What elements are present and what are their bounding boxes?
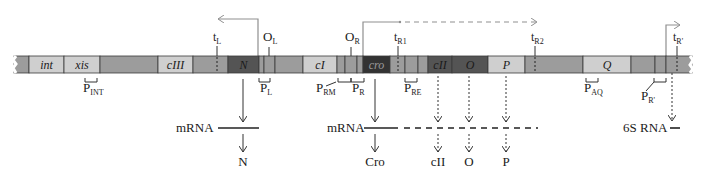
segment (100, 56, 158, 73)
promoter-label-PL: PL (260, 80, 272, 97)
promoter-label-PINT: PINT (83, 80, 104, 97)
genome-bar: intxiscIIINcIcrocIIOPQ (13, 56, 693, 73)
transcript-arrows (218, 19, 680, 56)
gene-label-O: O (466, 58, 475, 72)
promoter-label-PR: PR (352, 80, 365, 97)
product-O: O (464, 76, 473, 169)
torn-edge-left (13, 56, 16, 73)
gene-label-xis: xis (74, 58, 89, 72)
operator-label-OL: OL (263, 29, 277, 46)
segment-xis: xis (64, 56, 100, 73)
segment (337, 56, 345, 73)
promoter-label-PR': PR' (641, 88, 656, 105)
segment-N: N (228, 56, 259, 73)
promoter-PR: PR (351, 78, 365, 97)
segment (525, 56, 583, 73)
operator-OR: OR (345, 29, 360, 56)
operator-OL: OL (263, 29, 277, 56)
terminator-label-tR1: tR1 (394, 30, 407, 46)
mrna-label: mRNA (176, 120, 214, 135)
torn-edge-right (690, 56, 693, 73)
promoter-label-PAQ: PAQ (584, 80, 603, 97)
promoter-label-PRM: PRM (316, 80, 336, 97)
terminator-label-tR': tR' (673, 30, 684, 46)
gene-label-N: N (238, 58, 248, 72)
product-label: Cro (365, 154, 385, 169)
gene-label-cro: cro (369, 58, 385, 72)
gene-label-cI: cI (315, 58, 325, 72)
gene-label-Q: Q (603, 58, 612, 72)
mrna-label: mRNA (327, 120, 365, 135)
segment (193, 56, 228, 73)
promoter-PAQ: PAQ (584, 78, 603, 97)
promoter-PR': PR' (641, 78, 666, 105)
segment-Q: Q (583, 56, 631, 73)
segment (405, 56, 418, 73)
product-N: N (238, 79, 248, 169)
promoter-PRM: PRM (316, 78, 351, 97)
segment (345, 56, 357, 73)
product-P: P (502, 76, 509, 169)
mrna-1: mRNA (327, 120, 538, 135)
protein-products: NCrocIIOP (238, 73, 672, 169)
promoter-PINT: PINT (83, 78, 104, 97)
segment (418, 56, 428, 73)
gene-label-int: int (40, 58, 53, 72)
segment-cII: cII (428, 56, 452, 73)
gene-label-cIII: cIII (167, 58, 185, 72)
segment-P: P (488, 56, 525, 73)
segment-cro: cro (363, 56, 390, 73)
transcript-arrow-leftward (218, 19, 258, 56)
promoter-label-PRE: PRE (404, 80, 422, 97)
segment-cIII: cIII (158, 56, 193, 73)
segment-cI: cI (303, 56, 337, 73)
product-label: N (238, 154, 248, 169)
gene-label-cII: cII (433, 58, 447, 72)
segment (264, 56, 275, 73)
mrna-label: 6S RNA (623, 120, 668, 135)
segment (631, 56, 655, 73)
transcript-arrow-rightward (363, 21, 537, 56)
operator-label-OR: OR (345, 29, 360, 46)
product-label: cII (431, 154, 445, 169)
segment (666, 56, 692, 73)
product-label: O (464, 154, 473, 169)
product-Cro: Cro (365, 79, 385, 169)
segment-O: O (452, 56, 488, 73)
terminator-label-tR2: tR2 (531, 30, 544, 46)
lambda-map-diagram: intxiscIIINcIcrocIIOPQ tLtR1tR2tR'OLOR P… (0, 0, 707, 181)
promoter-PL: PL (259, 78, 272, 97)
segment-int: int (29, 56, 64, 73)
segment (275, 56, 303, 73)
product-cII: cII (431, 76, 445, 169)
mrna-2: 6S RNA (623, 120, 680, 135)
segment (259, 56, 264, 73)
product-label: P (502, 154, 509, 169)
promoter-PRE: PRE (404, 78, 422, 97)
gene-label-P: P (502, 58, 511, 72)
segment (655, 56, 666, 73)
segment (357, 56, 363, 73)
terminator-label-tL: tL (213, 30, 221, 46)
mrna-0: mRNA (176, 120, 259, 135)
mrna-transcripts: mRNAmRNA6S RNA (176, 120, 680, 135)
